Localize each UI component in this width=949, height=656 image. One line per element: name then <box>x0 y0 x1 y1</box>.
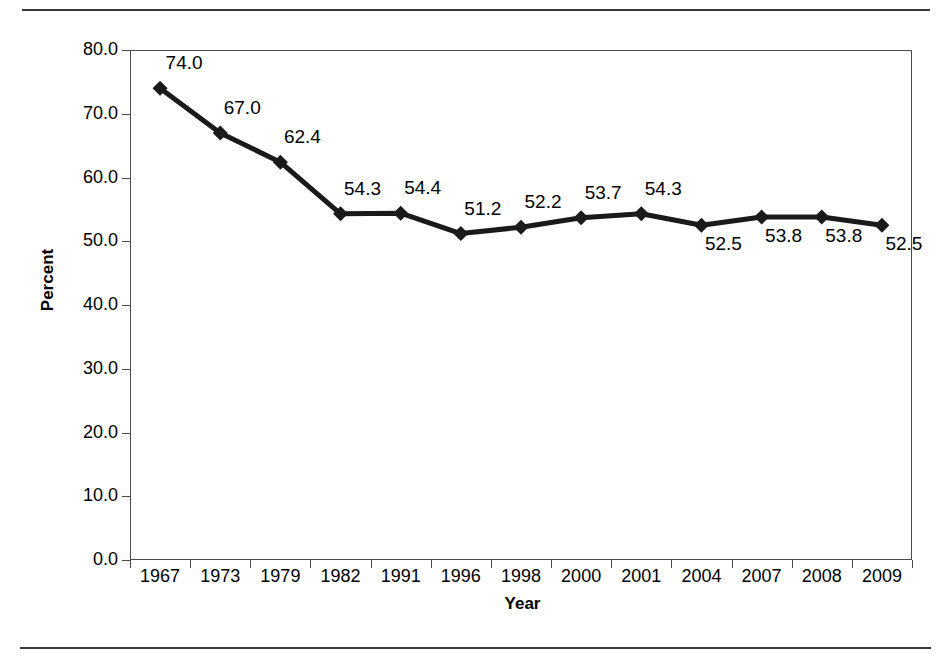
y-tick-label: 80.0 <box>83 39 118 60</box>
y-tick-mark <box>122 305 130 306</box>
y-tick-mark <box>122 560 130 561</box>
data-point-label: 54.3 <box>628 178 698 200</box>
data-point-label: 74.0 <box>149 52 219 74</box>
data-point-label: 67.0 <box>207 97 277 119</box>
y-tick-label: 20.0 <box>83 422 118 443</box>
y-tick-mark <box>122 178 130 179</box>
data-point-label: 52.5 <box>869 233 939 255</box>
y-tick-label: 60.0 <box>83 167 118 188</box>
y-tick-label: 10.0 <box>83 485 118 506</box>
y-tick-mark <box>122 241 130 242</box>
line-chart-figure: Percent 0.010.020.030.040.050.060.070.08… <box>0 0 949 656</box>
x-axis-title: Year <box>0 594 949 614</box>
y-tick-label: 70.0 <box>83 103 118 124</box>
y-tick-mark <box>122 433 130 434</box>
y-tick-label: 30.0 <box>83 358 118 379</box>
y-tick-mark <box>122 50 130 51</box>
x-axis-title-text: Year <box>505 594 541 613</box>
y-tick-label: 0.0 <box>93 549 118 570</box>
y-tick-mark <box>122 114 130 115</box>
y-axis-title: Percent <box>38 210 58 350</box>
data-point-label: 54.4 <box>388 177 458 199</box>
data-point-label: 62.4 <box>267 126 337 148</box>
y-tick-mark <box>122 369 130 370</box>
y-tick-label: 50.0 <box>83 230 118 251</box>
y-tick-mark <box>122 496 130 497</box>
page-canvas: Percent 0.010.020.030.040.050.060.070.08… <box>0 0 949 656</box>
x-tick-label: 2009 <box>844 566 920 587</box>
y-tick-label: 40.0 <box>83 294 118 315</box>
plot-area-frame <box>130 50 912 560</box>
